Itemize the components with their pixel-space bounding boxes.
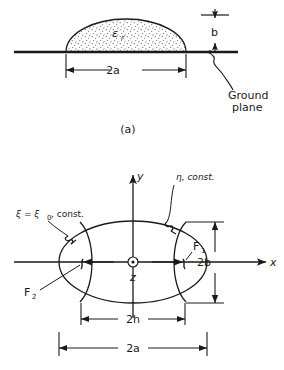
ground-plane-leader-line: [210, 52, 233, 90]
xi-label: ξ = ξ: [15, 209, 40, 219]
2h-arrowhead-right: [177, 316, 185, 322]
focus-1-label: F: [193, 240, 199, 253]
panel-a-caption: (a): [120, 123, 135, 136]
eta-label: η, const.: [176, 172, 215, 182]
focus-2-tick: [81, 259, 83, 269]
2h-arrowhead-left: [81, 316, 89, 322]
eta-leader-tip: [171, 231, 176, 234]
y-axis-label: y: [136, 170, 144, 183]
panel-a-2a-dimension-group: 2a: [66, 54, 186, 78]
z-axis-label: z: [129, 271, 136, 284]
ground-plane-leader-dot: [208, 50, 212, 54]
epsilon-symbol: ε: [112, 27, 118, 40]
panel-a-group: ε r b 2a Ground plane (a): [14, 9, 268, 136]
focus-2-arrowhead: [83, 259, 92, 266]
focus-1-leader: [186, 252, 192, 260]
b-dimension-label: b: [211, 26, 218, 39]
xi-label-tail: , const.: [51, 209, 84, 219]
panel-b-2a-arrowhead-left: [59, 345, 67, 351]
eta-leader-squiggle: [165, 222, 172, 231]
eta-label-group: η, const.: [165, 172, 214, 234]
technical-figure: ε r b 2a Ground plane (a): [0, 0, 284, 370]
2b-arrowhead-top: [212, 222, 218, 230]
ground-plane-leader: [208, 50, 233, 90]
2b-dimension-label: 2b: [197, 256, 211, 269]
focus-1-arrowhead: [174, 259, 183, 266]
xi-leader-tip: [71, 240, 76, 244]
panel-b-2a-dimension-group: 2a: [59, 332, 207, 356]
eta-leader-line: [167, 185, 174, 222]
xi-leader-line: [48, 221, 68, 236]
focus-2-subscript: 2: [32, 293, 36, 301]
focus-1-subscript: 1: [201, 247, 205, 255]
focus-1-marker: [152, 259, 185, 269]
x-axis-label: x: [269, 256, 277, 269]
ground-plane-label-line2: plane: [232, 101, 263, 114]
focus-1-tick: [183, 259, 185, 269]
dielectric-half-ellipse: [66, 19, 186, 52]
z-axis-origin-marker: [128, 257, 138, 267]
panel-b-2a-arrowhead-right: [199, 345, 207, 351]
panel-a-2a-label: 2a: [106, 64, 120, 77]
focus-2-label-group: F 2: [24, 265, 80, 301]
2b-arrowhead-bottom: [212, 295, 218, 303]
2a-arrowhead-right: [178, 67, 186, 73]
focus-2-marker: [81, 259, 114, 269]
panel-b-2a-label: 2a: [126, 342, 140, 355]
2h-dimension-label: 2h: [126, 313, 140, 326]
focus-2-label: F: [24, 286, 30, 299]
xi-label-group: ξ = ξ 0 , const.: [15, 209, 84, 244]
panel-b-group: y x F 1 F 2: [14, 170, 277, 356]
2a-arrowhead-left: [66, 67, 74, 73]
b-dimension-group: b: [201, 9, 229, 52]
z-axis-dot: [131, 260, 134, 263]
